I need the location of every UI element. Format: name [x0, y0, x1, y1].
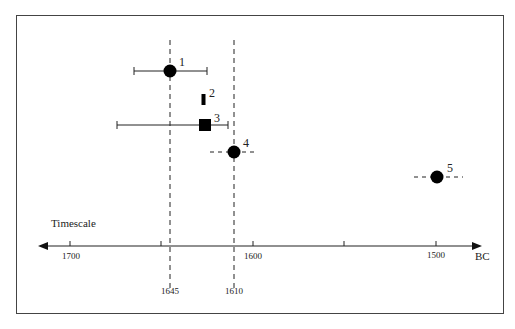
data-point-5 [414, 171, 463, 184]
data-point-4 [210, 146, 258, 159]
tick-label-1600: 1600 [244, 252, 262, 261]
circle-marker-icon [164, 65, 177, 78]
point-label-3: 3 [214, 112, 220, 124]
point-label-5: 5 [447, 162, 453, 174]
timescale-label: Timescale [51, 218, 96, 229]
circle-marker-icon [431, 171, 444, 184]
axis-arrow-left-icon [38, 242, 48, 250]
point-label-4: 4 [243, 137, 249, 149]
point-label-1: 1 [179, 56, 185, 68]
circle-marker-icon [228, 146, 241, 159]
timeline-diagram [0, 0, 515, 329]
data-point-2 [202, 94, 206, 105]
unit-label: BC [475, 251, 490, 262]
data-point-1 [134, 65, 207, 78]
data-point-3 [117, 119, 228, 131]
axis-arrow-right-icon [472, 242, 482, 250]
tick-label-1700: 1700 [62, 252, 80, 261]
square-marker-icon [199, 119, 211, 131]
bar-marker-icon [202, 94, 206, 105]
axis-ticks [70, 241, 436, 246]
tick-label-1500: 1500 [427, 251, 445, 260]
reference-label-1610: 1610 [225, 287, 243, 296]
reference-label-1645: 1645 [161, 287, 179, 296]
point-label-2: 2 [209, 87, 215, 99]
